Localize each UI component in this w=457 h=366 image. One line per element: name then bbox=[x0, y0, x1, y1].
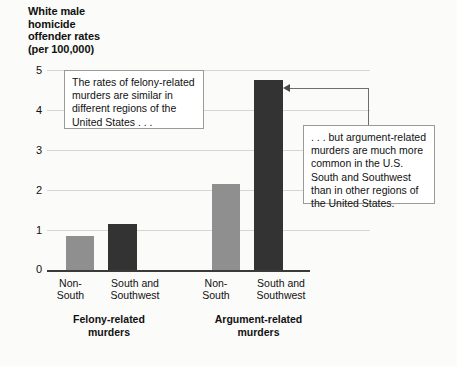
leader-line-vertical bbox=[368, 88, 369, 125]
x-label-argument-non-south: Non- South bbox=[192, 277, 240, 301]
x-label-felony-south-southwest: South and Southwest bbox=[96, 277, 174, 301]
annotation-felony-callout: The rates of felony-related murders are … bbox=[64, 70, 204, 129]
group-label-argument: Argument-related murders bbox=[186, 313, 331, 338]
annotation-argument-callout: . . . but argument-related murders are m… bbox=[303, 125, 435, 204]
y-axis-tick-1: 1 bbox=[20, 225, 42, 236]
chart-title: White male homicide offender rates (per … bbox=[28, 5, 208, 55]
y-axis-tick-4: 4 bbox=[20, 105, 42, 116]
gridline-1 bbox=[47, 230, 370, 231]
bar-argument-south-southwest bbox=[254, 80, 283, 270]
y-axis-tick-0: 0 bbox=[20, 264, 42, 275]
y-axis-tick-2: 2 bbox=[20, 185, 42, 196]
y-axis-tick-3: 3 bbox=[20, 145, 42, 156]
bar-argument-non-south bbox=[212, 184, 240, 270]
bar-felony-non-south bbox=[66, 236, 94, 270]
arrow-left-icon bbox=[283, 84, 290, 92]
y-axis-tick-5: 5 bbox=[20, 65, 42, 76]
chart-container: White male homicide offender rates (per … bbox=[0, 0, 457, 366]
bar-felony-south-southwest bbox=[108, 224, 137, 270]
x-label-felony-non-south: Non- South bbox=[47, 277, 94, 301]
x-label-argument-south-southwest: South and Southwest bbox=[242, 277, 320, 301]
group-label-felony: Felony-related murders bbox=[43, 313, 175, 338]
leader-line-horizontal bbox=[290, 88, 369, 89]
x-axis-line bbox=[47, 270, 310, 272]
